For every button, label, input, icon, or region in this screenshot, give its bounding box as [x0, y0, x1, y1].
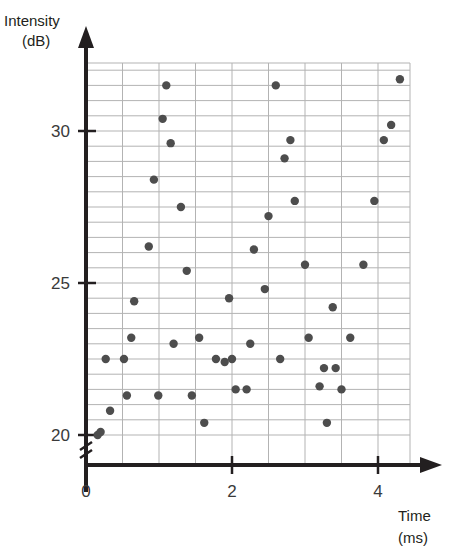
y-axis	[78, 26, 94, 492]
scatter-point	[188, 391, 196, 399]
scatter-point	[264, 212, 272, 220]
scatter-point	[337, 385, 345, 393]
scatter-point	[212, 355, 220, 363]
scatter-point	[387, 121, 395, 129]
scatter-point	[106, 406, 114, 414]
x-tick-label: 0	[81, 482, 90, 501]
scatter-point	[150, 175, 158, 183]
scatter-point	[123, 391, 131, 399]
scatter-point	[162, 81, 170, 89]
x-axis-ticks: 024	[81, 456, 382, 501]
x-axis-label-unit: (ms)	[398, 529, 428, 546]
y-axis-label-name: Intensity	[4, 12, 60, 29]
y-tick-label: 25	[51, 274, 70, 293]
y-tick-label: 30	[51, 122, 70, 141]
scatter-points	[93, 75, 404, 439]
y-axis-arrowhead	[78, 26, 94, 48]
y-axis-label-unit: (dB)	[22, 32, 50, 49]
chart-canvas: 202530 024 Intensity (dB) Time (ms)	[0, 0, 462, 555]
y-axis-ticks: 202530	[51, 122, 96, 445]
scatter-point	[158, 115, 166, 123]
x-tick-label: 4	[373, 482, 382, 501]
scatter-point	[169, 340, 177, 348]
scatter-point	[359, 261, 367, 269]
x-axis-arrowhead	[420, 457, 442, 473]
scatter-point	[315, 382, 323, 390]
scatter-point	[301, 261, 309, 269]
x-axis	[86, 457, 442, 473]
scatter-point	[250, 245, 258, 253]
scatter-point	[183, 267, 191, 275]
x-axis-label-name: Time	[398, 507, 431, 524]
scatter-point	[272, 81, 280, 89]
scatter-point	[166, 139, 174, 147]
scatter-point	[145, 242, 153, 250]
scatter-point	[323, 419, 331, 427]
scatter-point	[286, 136, 294, 144]
scatter-point	[276, 355, 284, 363]
scatter-point	[396, 75, 404, 83]
scatter-point	[346, 334, 354, 342]
scatter-point	[261, 285, 269, 293]
scatter-plot-figure: 202530 024 Intensity (dB) Time (ms)	[0, 0, 462, 555]
scatter-point	[329, 303, 337, 311]
scatter-point	[320, 364, 328, 372]
scatter-point	[120, 355, 128, 363]
scatter-point	[246, 340, 254, 348]
scatter-point	[177, 203, 185, 211]
scatter-point	[130, 297, 138, 305]
scatter-point	[96, 428, 104, 436]
scatter-point	[280, 154, 288, 162]
scatter-point	[228, 355, 236, 363]
scatter-point	[102, 355, 110, 363]
y-tick-label: 20	[51, 426, 70, 445]
scatter-point	[221, 358, 229, 366]
x-tick-label: 2	[227, 482, 236, 501]
scatter-point	[231, 385, 239, 393]
scatter-point	[304, 334, 312, 342]
scatter-point	[370, 197, 378, 205]
scatter-point	[127, 334, 135, 342]
scatter-point	[242, 385, 250, 393]
scatter-point	[225, 294, 233, 302]
scatter-point	[195, 334, 203, 342]
scatter-point	[291, 197, 299, 205]
scatter-point	[380, 136, 388, 144]
scatter-point	[200, 419, 208, 427]
scatter-point	[154, 391, 162, 399]
scatter-point	[331, 364, 339, 372]
